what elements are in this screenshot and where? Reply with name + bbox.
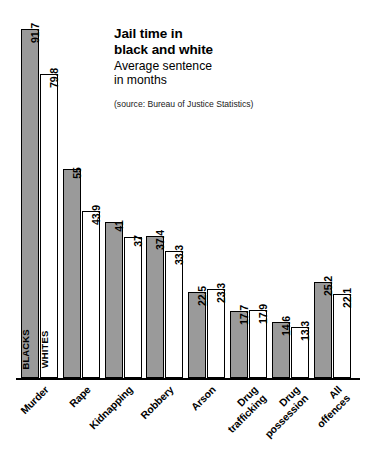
bar-value-label: 17.9 bbox=[258, 304, 269, 324]
bar-kidnapping-blacks: 41 bbox=[105, 222, 123, 378]
bar-value-label: 37 bbox=[133, 235, 144, 246]
bar-drug-possession-blacks: 14.6 bbox=[272, 322, 290, 378]
bar-arson-whites: 23.3 bbox=[207, 289, 225, 378]
category-label-kidnapping: Kidnapping bbox=[87, 384, 135, 432]
bar-robbery-blacks: 37.4 bbox=[146, 236, 164, 378]
category-label-arson: Arson bbox=[189, 384, 218, 413]
category-label-line: Rape bbox=[67, 384, 92, 409]
bar-value-label: 43.9 bbox=[91, 205, 102, 225]
chart-root: Jail time in black and white Average sen… bbox=[0, 0, 371, 476]
bar-value-label: 41 bbox=[114, 220, 125, 231]
bar-rape-whites: 43.9 bbox=[82, 211, 100, 378]
bar-drug-possession-whites: 13.3 bbox=[291, 327, 309, 378]
bar-arson-blacks: 22.5 bbox=[188, 292, 206, 378]
bar-value-label: 25.2 bbox=[323, 276, 334, 296]
category-label-rape: Rape bbox=[67, 384, 93, 410]
bar-value-label: 79.8 bbox=[49, 68, 60, 88]
category-label-line: Murder bbox=[19, 384, 51, 416]
category-label-line: Kidnapping bbox=[87, 384, 134, 431]
bar-value-label: 33.3 bbox=[174, 245, 185, 265]
bar-value-label: 13.3 bbox=[300, 321, 311, 341]
legend-label-blacks: BLACKS bbox=[21, 329, 30, 369]
bar-value-label: 22.5 bbox=[197, 286, 208, 306]
legend-label-whites: WHITES bbox=[40, 330, 49, 368]
bar-murder-blacks: 91.7BLACKS bbox=[21, 29, 39, 378]
category-label-murder: Murder bbox=[19, 384, 52, 417]
category-label-drug-possession: Drugpossession bbox=[254, 384, 310, 440]
bar-drug-trafficking-blacks: 17.7 bbox=[230, 311, 248, 378]
bar-value-label: 14.6 bbox=[281, 316, 292, 336]
category-label-robbery: Robbery bbox=[139, 384, 177, 422]
category-label-all-offences: Alloffences bbox=[306, 384, 352, 430]
bar-value-label: 22.1 bbox=[342, 288, 353, 308]
bar-drug-trafficking-whites: 17.9 bbox=[249, 310, 267, 378]
bar-murder-whites: 79.8WHITES bbox=[40, 74, 58, 378]
bar-kidnapping-whites: 37 bbox=[124, 237, 142, 378]
bar-value-label: 37.4 bbox=[155, 230, 166, 250]
bar-value-label: 23.3 bbox=[216, 283, 227, 303]
bar-robbery-whites: 33.3 bbox=[165, 251, 183, 378]
category-label-line: Robbery bbox=[139, 384, 176, 421]
bar-value-label: 55 bbox=[72, 167, 83, 178]
bar-all-offences-whites: 22.1 bbox=[333, 294, 351, 378]
axis-baseline bbox=[16, 378, 360, 380]
category-label-line: Arson bbox=[189, 384, 218, 413]
bar-value-label: 17.7 bbox=[239, 305, 250, 325]
plot-area: 91.7BLACKS79.8WHITES5543.9413737.433.322… bbox=[0, 0, 371, 380]
bar-value-label: 91.7 bbox=[30, 23, 41, 43]
bar-all-offences-blacks: 25.2 bbox=[314, 282, 332, 378]
bar-rape-blacks: 55 bbox=[63, 169, 81, 378]
